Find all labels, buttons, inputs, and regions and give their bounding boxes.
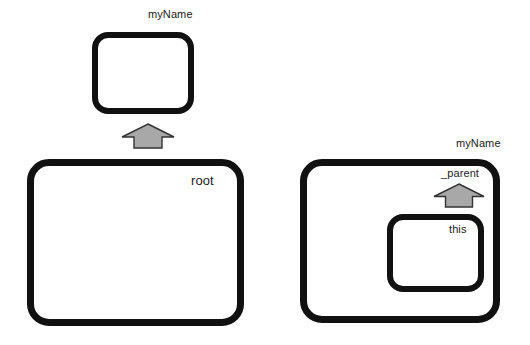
node-box-myname-top: [92, 32, 194, 114]
label-root: root: [191, 174, 214, 187]
diagram-canvas: myName root myName _parent this: [0, 0, 530, 345]
up-arrow-icon-root: [120, 122, 176, 150]
label-parent: _parent: [441, 168, 479, 179]
label-this: this: [449, 224, 467, 235]
label-myname-top: myName: [148, 9, 193, 20]
up-arrow-icon-parent: [432, 182, 486, 209]
label-myname-right: myName: [456, 138, 501, 149]
node-box-this: [387, 214, 484, 292]
